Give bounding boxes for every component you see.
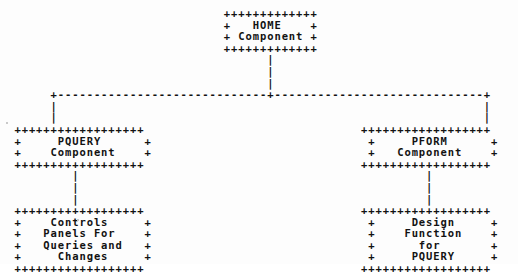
scan-artifact-speck <box>77 219 79 221</box>
ascii-art-canvas: +++++++++++++ + HOME + + Component + +++… <box>0 0 498 275</box>
scan-artifact-speck <box>6 122 8 124</box>
